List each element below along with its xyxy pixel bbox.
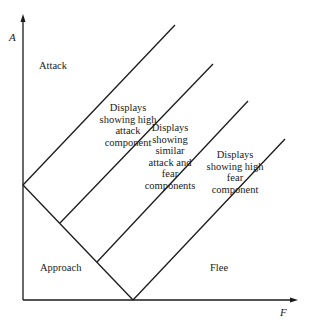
approach-boundary-line — [23, 185, 133, 300]
x-axis-label: F — [280, 306, 287, 318]
band-high-fear-label: Displays showing high fear component — [190, 149, 280, 195]
region-flee-label: Flee — [210, 262, 228, 274]
band-line: showing high — [190, 161, 280, 173]
band-line: component — [190, 184, 280, 196]
band-line: Displays — [83, 102, 173, 114]
x-axis-arrow-icon — [290, 298, 298, 303]
band-line: Displays — [190, 149, 280, 161]
region-attack-label: Attack — [39, 60, 67, 72]
band-line: showing — [130, 134, 210, 146]
band-line: Displays — [130, 122, 210, 134]
y-axis-label: A — [9, 31, 16, 43]
y-axis-arrow-icon — [21, 14, 26, 22]
band-line: fear — [190, 172, 280, 184]
region-approach-label: Approach — [40, 262, 81, 274]
